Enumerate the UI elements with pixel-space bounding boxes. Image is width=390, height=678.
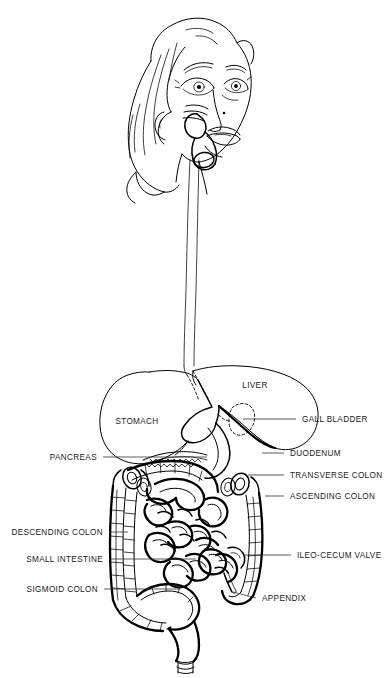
- label-small-intestine: SMALL INTESTINE: [26, 555, 103, 564]
- label-liver: LIVER: [242, 381, 267, 390]
- digestive-system-diagram: LIVER STOMACH GALL BLADDER DUODENUM TRAN…: [0, 0, 390, 678]
- head-and-face-drawing: [127, 18, 254, 203]
- callout-labels-left: PANCREAS DESCENDING COLON SMALL INTESTIN…: [11, 453, 103, 594]
- anatomy-illustration: LIVER STOMACH GALL BLADDER DUODENUM TRAN…: [0, 0, 390, 678]
- label-ascending-colon: ASCENDING COLON: [290, 492, 375, 501]
- callout-labels-right: GALL BLADDER DUODENUM TRANSVERSE COLON A…: [262, 415, 383, 603]
- label-ileo-cecum-valve: ILEO-CECUM VALVE: [297, 551, 382, 560]
- small-intestine: [145, 479, 237, 588]
- label-duodenum: DUODENUM: [290, 449, 341, 458]
- label-pancreas: PANCREAS: [50, 453, 97, 462]
- label-transverse-colon: TRANSVERSE COLON: [290, 471, 383, 480]
- label-gall-bladder: GALL BLADDER: [302, 415, 368, 424]
- esophagus: [184, 160, 199, 375]
- descending-colon: [110, 486, 137, 600]
- label-appendix: APPENDIX: [262, 594, 306, 603]
- label-sigmoid-colon: SIGMOID COLON: [27, 585, 98, 594]
- label-descending-colon: DESCENDING COLON: [11, 528, 103, 537]
- label-stomach: STOMACH: [115, 417, 158, 426]
- duodenum: [205, 423, 230, 478]
- appendix: [224, 572, 236, 593]
